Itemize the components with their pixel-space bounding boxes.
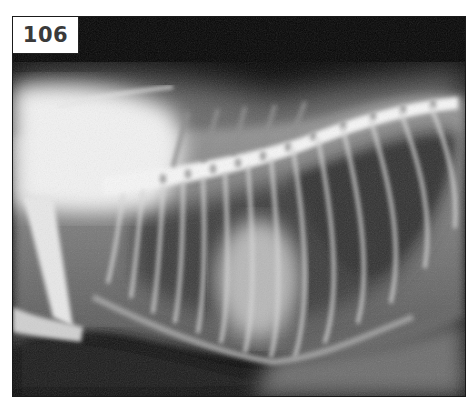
figure-number-label: 106 [13,17,79,54]
radiograph-frame [13,17,465,396]
radiograph-image [13,17,465,396]
figure-number-text: 106 [23,23,68,47]
